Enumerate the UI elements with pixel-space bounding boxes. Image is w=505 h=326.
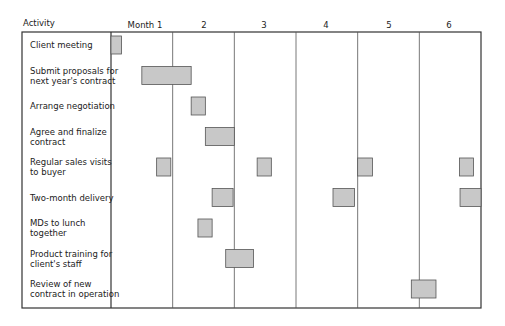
- column-label: 5: [386, 20, 391, 30]
- column-label: 3: [261, 20, 266, 30]
- gantt-bar: [111, 36, 121, 54]
- gantt-bar: [212, 189, 233, 207]
- gantt-bar: [333, 189, 355, 207]
- gantt-bar: [157, 158, 171, 176]
- gantt-bar: [142, 67, 191, 85]
- column-label: 2: [201, 20, 206, 30]
- activity-label: Review of new: [30, 279, 92, 289]
- activity-label: MDs to lunch: [30, 218, 85, 228]
- column-label: 4: [323, 20, 328, 30]
- activity-label: next year's contract: [30, 76, 116, 86]
- gantt-bar: [226, 250, 254, 268]
- gantt-bar: [191, 97, 205, 115]
- activity-label: Two-month delivery: [29, 193, 114, 203]
- activity-label: Product training for: [30, 249, 113, 259]
- column-label: 6: [446, 20, 451, 30]
- gantt-bar: [411, 280, 436, 298]
- gantt-bar: [358, 158, 373, 176]
- activity-label: Client meeting: [30, 40, 93, 50]
- gantt-chart: Activity Month 123456 Client meetingSubm…: [0, 0, 505, 326]
- activity-label: Agree and finalize: [30, 127, 107, 137]
- gantt-bar: [257, 158, 271, 176]
- activity-label: contract in operation: [30, 289, 119, 299]
- gantt-bar: [459, 158, 473, 176]
- activity-label: Regular sales visits: [30, 157, 112, 167]
- activity-label: contract: [30, 137, 66, 147]
- activity-label: together: [30, 228, 67, 238]
- column-label: Month 1: [128, 20, 163, 30]
- activity-label: client's staff: [30, 259, 83, 269]
- activity-label: Arrange negotiation: [30, 101, 115, 111]
- gantt-bar: [198, 219, 212, 237]
- activity-label: to buyer: [30, 167, 66, 177]
- gantt-bar: [205, 128, 234, 146]
- activity-label: Submit proposals for: [30, 66, 119, 76]
- activity-header: Activity: [23, 18, 55, 28]
- gantt-bar: [460, 189, 481, 207]
